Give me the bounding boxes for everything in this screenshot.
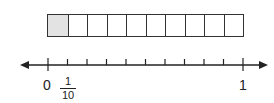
denominator: 10 <box>60 90 76 101</box>
label-zero: 0 <box>43 77 51 93</box>
label-one-tenth: 1 10 <box>60 76 76 101</box>
left-arrow-icon <box>20 61 29 69</box>
label-one: 1 <box>239 77 247 93</box>
numerator: 1 <box>60 76 76 87</box>
number-line <box>0 0 274 103</box>
right-arrow-icon <box>259 61 268 69</box>
